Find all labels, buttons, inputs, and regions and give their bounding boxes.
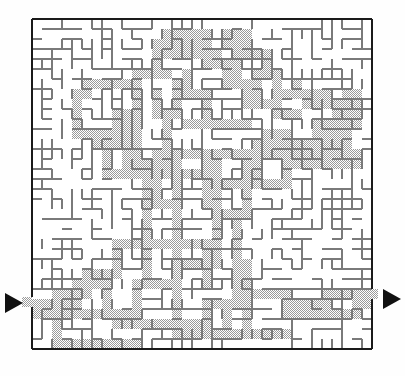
maze-canvas [0, 0, 405, 376]
exit-arrow [382, 288, 402, 310]
maze-figure [0, 0, 405, 376]
entrance-arrow [4, 292, 24, 314]
